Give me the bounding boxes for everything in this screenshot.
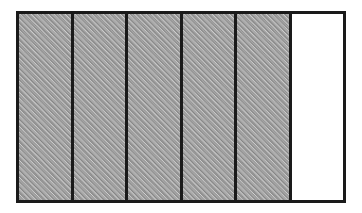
area-model-part-2 <box>74 14 129 200</box>
area-model-part-1 <box>19 14 74 200</box>
area-model-part-6 <box>292 14 344 200</box>
figure-canvas <box>0 0 362 213</box>
area-model-part-3 <box>128 14 183 200</box>
area-model-part-5 <box>237 14 292 200</box>
area-model-rectangle <box>16 11 346 203</box>
area-model-part-4 <box>183 14 238 200</box>
